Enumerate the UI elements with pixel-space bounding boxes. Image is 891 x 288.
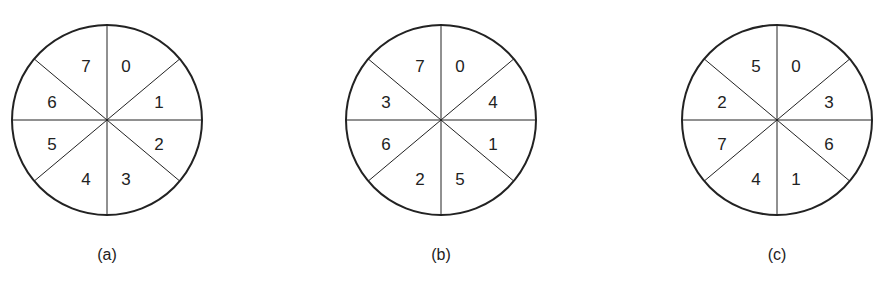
sector-label: 4 [751, 170, 760, 189]
circle-sector-graphic: 04152637 [334, 0, 554, 240]
sector-label: 0 [121, 57, 130, 76]
disk-diagram-a: 01234567 [0, 0, 220, 244]
sector-label: 4 [488, 93, 497, 112]
sector-label: 2 [154, 135, 163, 154]
sector-label: 3 [824, 93, 833, 112]
sector-label: 4 [81, 170, 90, 189]
caption-c: (c) [747, 246, 807, 264]
sector-label: 5 [751, 57, 760, 76]
sector-label: 0 [791, 57, 800, 76]
disk-diagram-c: 03614725 [670, 0, 890, 244]
sector-label: 2 [717, 93, 726, 112]
sector-label: 7 [81, 57, 90, 76]
sector-label: 7 [415, 57, 424, 76]
sector-label: 1 [154, 93, 163, 112]
sector-label: 3 [121, 170, 130, 189]
sector-label: 2 [415, 170, 424, 189]
sector-label: 1 [488, 135, 497, 154]
sector-label: 6 [824, 135, 833, 154]
sector-label: 6 [47, 93, 56, 112]
sector-label: 5 [455, 170, 464, 189]
disk-diagram-b: 04152637 [334, 0, 554, 244]
circle-sector-graphic: 01234567 [0, 0, 220, 240]
sector-label: 5 [47, 135, 56, 154]
circle-sector-graphic: 03614725 [670, 0, 890, 240]
sector-label: 3 [381, 93, 390, 112]
sector-label: 1 [791, 170, 800, 189]
caption-a: (a) [77, 246, 137, 264]
caption-b: (b) [411, 246, 471, 264]
sector-label: 7 [717, 135, 726, 154]
sector-label: 6 [381, 135, 390, 154]
sector-label: 0 [455, 57, 464, 76]
